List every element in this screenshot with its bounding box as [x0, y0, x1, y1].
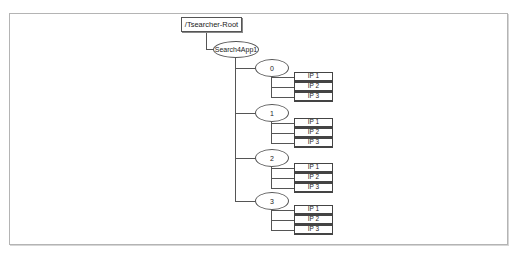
ip-node[interactable]: IP 2 [294, 82, 333, 92]
ip-node-label: IP 1 [308, 164, 319, 171]
ip-node[interactable]: IP 2 [294, 215, 333, 225]
ip-node-label: IP 3 [308, 226, 319, 233]
group-node-1[interactable]: 1 [255, 104, 289, 122]
ip-node[interactable]: IP 1 [294, 163, 333, 173]
ip-node[interactable]: IP 2 [294, 173, 333, 183]
ip-node[interactable]: IP 1 [294, 72, 333, 82]
ip-node-label: IP 3 [308, 93, 319, 100]
ip-node-label: IP 2 [308, 216, 319, 223]
ip-node-label: IP 1 [308, 73, 319, 80]
ip-node-label: IP 1 [308, 119, 319, 126]
ip-node[interactable]: IP 3 [294, 138, 333, 148]
group-node-label: 3 [270, 198, 274, 205]
group-node-2[interactable]: 2 [255, 149, 289, 167]
root-node[interactable]: /Tsearcher-Root [181, 17, 242, 32]
ip-node-label: IP 1 [308, 206, 319, 213]
ip-node[interactable]: IP 3 [294, 92, 333, 102]
ip-node-label: IP 2 [308, 129, 319, 136]
app-node[interactable]: Search4App1 [213, 41, 259, 58]
ip-node[interactable]: IP 3 [294, 183, 333, 193]
ip-node-label: IP 3 [308, 184, 319, 191]
group-node-0[interactable]: 0 [255, 59, 289, 77]
app-node-label: Search4App1 [215, 46, 257, 53]
ip-node[interactable]: IP 1 [294, 118, 333, 128]
group-node-label: 1 [270, 110, 274, 117]
group-node-label: 0 [270, 65, 274, 72]
group-node-3[interactable]: 3 [255, 192, 289, 210]
ip-node[interactable]: IP 3 [294, 225, 333, 235]
group-node-label: 2 [270, 155, 274, 162]
ip-node-label: IP 2 [308, 174, 319, 181]
ip-node[interactable]: IP 1 [294, 205, 333, 215]
ip-node-label: IP 2 [308, 83, 319, 90]
root-node-label: /Tsearcher-Root [185, 21, 238, 29]
ip-node[interactable]: IP 2 [294, 128, 333, 138]
ip-node-label: IP 3 [308, 139, 319, 146]
connector-lines [0, 0, 518, 253]
